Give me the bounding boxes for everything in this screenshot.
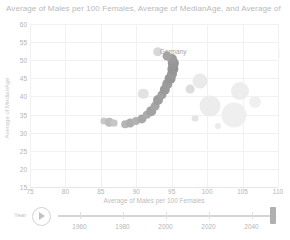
timeline-tick-label: 1960 — [72, 223, 86, 230]
bubble-point[interactable] — [192, 115, 199, 122]
gridline-vertical — [65, 24, 66, 187]
play-triangle-icon — [39, 212, 45, 220]
gridline-horizontal — [30, 24, 278, 25]
x-tick: 105 — [237, 188, 248, 195]
y-tick: 50 — [20, 57, 27, 64]
timeline-tick-labels: 19601980200020202040 — [58, 223, 273, 233]
bubble-point[interactable] — [222, 102, 247, 127]
x-tick: 75 — [26, 188, 33, 195]
bubble-chart-visual: Average of Males per 100 Females, Averag… — [0, 0, 290, 240]
plot-area[interactable]: Germany — [30, 24, 278, 187]
bubble-point[interactable] — [199, 95, 220, 116]
y-axis-title: Average of MedianAge — [4, 73, 10, 143]
timeline-tick-label: 1980 — [115, 223, 129, 230]
chart-title: Average of Males per 100 Females, Averag… — [6, 4, 290, 13]
gridline-horizontal — [30, 169, 278, 170]
timeline-tick — [80, 212, 81, 219]
bubble-point[interactable] — [193, 74, 208, 89]
gridline-vertical — [101, 24, 102, 187]
gridline-vertical — [136, 24, 137, 187]
gridline-horizontal — [30, 133, 278, 134]
y-tick: 55 — [20, 39, 27, 46]
gridline-vertical — [30, 24, 31, 187]
bubble-point[interactable] — [249, 96, 261, 108]
x-tick: 95 — [168, 188, 175, 195]
gridline-horizontal — [30, 151, 278, 152]
bubble-point[interactable] — [111, 120, 118, 127]
y-tick: 35 — [20, 111, 27, 118]
timeline-handle[interactable] — [270, 207, 276, 224]
year-player[interactable]: Year 19601980200020202040 — [0, 203, 290, 233]
y-tick: 25 — [20, 147, 27, 154]
timeline-tick — [166, 212, 167, 219]
year-label: Year — [14, 212, 26, 218]
data-point-label: Germany — [160, 47, 187, 54]
gridline-horizontal — [30, 60, 278, 61]
play-icon[interactable] — [32, 207, 51, 226]
timeline-tick — [252, 212, 253, 219]
x-tick: 85 — [97, 188, 104, 195]
y-tick: 45 — [20, 75, 27, 82]
x-tick: 80 — [62, 188, 69, 195]
timeline-tick-label: 2000 — [158, 223, 172, 230]
gridline-horizontal — [30, 78, 278, 79]
x-tick: 90 — [133, 188, 140, 195]
gridline-horizontal — [30, 42, 278, 43]
x-tick: 110 — [273, 188, 283, 195]
timeline-track[interactable] — [58, 215, 273, 217]
bubble-point[interactable] — [215, 123, 221, 129]
bubble-point[interactable] — [186, 85, 195, 94]
y-tick: 20 — [20, 165, 27, 172]
timeline-tick — [123, 212, 124, 219]
bottom-strip — [0, 234, 290, 240]
y-tick: 40 — [20, 93, 27, 100]
gridline-vertical — [278, 24, 279, 187]
timeline-tick — [209, 212, 210, 219]
timeline-tick-label: 2040 — [244, 223, 258, 230]
x-tick: 100 — [202, 188, 213, 195]
timeline-tick-label: 2020 — [201, 223, 215, 230]
y-tick: 60 — [20, 21, 27, 28]
y-tick: 30 — [20, 129, 27, 136]
bubble-point[interactable] — [231, 82, 249, 100]
